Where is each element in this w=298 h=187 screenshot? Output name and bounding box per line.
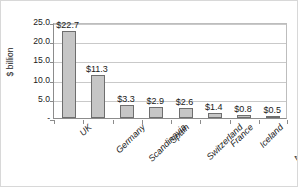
y-axis-tick-mark [50, 62, 54, 63]
bar[interactable] [266, 116, 280, 118]
x-axis-category-labels: UKGermanyScandinaviaSpainSwitzerlandFran… [53, 122, 298, 187]
bar-chart: $ billion 25.020.015.010.05.0- $22.7$11.… [0, 0, 298, 187]
bar[interactable] [62, 31, 76, 118]
x-axis-category-label: Netherlands [293, 122, 298, 163]
x-axis-category-label: Spain [168, 122, 191, 145]
y-axis-tick-mark [50, 82, 54, 83]
bar-value-label: $22.7 [45, 21, 91, 30]
y-axis-tick-mark [50, 101, 54, 102]
x-axis-category-label: UK [77, 122, 93, 138]
y-axis-tick-label: 15.0 [18, 56, 50, 65]
x-axis-category-label: Germany [114, 122, 147, 155]
bar[interactable] [149, 107, 163, 118]
y-axis-title: $ billion [5, 32, 15, 92]
y-axis-tick-mark [50, 43, 54, 44]
bar-value-label: $11.3 [74, 65, 120, 74]
y-axis-tick-label: 5.0 [18, 95, 50, 104]
bar-value-label: $0.5 [249, 106, 295, 115]
y-axis-tick-label: 10.0 [18, 76, 50, 85]
y-axis-tick-label: 20.0 [18, 37, 50, 46]
x-axis-category-label: Iceland [258, 122, 286, 150]
y-axis-tick-label: - [18, 114, 50, 123]
bar[interactable] [120, 105, 134, 118]
bar[interactable] [237, 115, 251, 118]
